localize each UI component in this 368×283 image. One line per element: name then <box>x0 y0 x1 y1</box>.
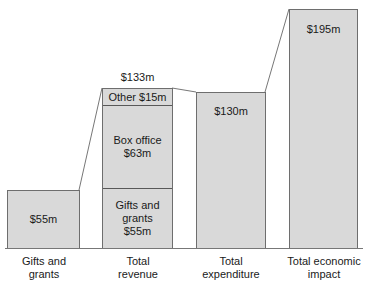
bar-gifts-and-grants[interactable]: $55m <box>7 190 80 249</box>
segment-label-box-office: Box office $63m <box>113 134 161 160</box>
x-axis-line <box>5 248 363 249</box>
bar-segment-total-economic-impact: $195m <box>290 10 357 248</box>
connector-bar1-bar2 <box>79 88 102 190</box>
bar-value-label: $130m <box>214 105 248 118</box>
bar-value-label: $195m <box>307 23 341 36</box>
bar-segment-total-expenditure: $130m <box>197 93 265 248</box>
plot-area: $55m Other $15m Box office $63m Gifts an… <box>0 0 368 283</box>
segment-label-other: Other $15m <box>108 91 166 104</box>
category-label-gifts-and-grants: Gifts and grants <box>3 255 85 281</box>
bar-segment-gifts-and-grants: $55m <box>8 191 79 248</box>
waterfall-chart: $55m Other $15m Box office $63m Gifts an… <box>0 0 368 283</box>
bar-total-economic-impact[interactable]: $195m <box>289 9 358 249</box>
bar-segment-box-office: Box office $63m <box>103 106 172 189</box>
category-label-total-expenditure: Total expenditure <box>189 255 273 281</box>
category-label-total-revenue: Total revenue <box>97 255 179 281</box>
connector-bar3-bar4 <box>265 9 289 92</box>
bar-segment-gifts-and-grants-stacked: Gifts and grants $55m <box>103 189 172 248</box>
bar-total-revenue[interactable]: Other $15m Box office $63m Gifts and gra… <box>102 88 173 249</box>
bar-total-label-revenue: $133m <box>102 71 173 84</box>
bar-total-expenditure[interactable]: $130m <box>196 92 266 249</box>
bar-value-label: $55m <box>30 213 58 226</box>
category-label-total-economic-impact: Total economic impact <box>282 255 366 281</box>
bar-segment-other: Other $15m <box>103 89 172 106</box>
connector-bar2-bar3 <box>172 88 196 92</box>
segment-label-gifts-and-grants: Gifts and grants $55m <box>115 199 159 238</box>
